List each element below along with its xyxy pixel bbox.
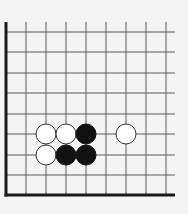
black-stone	[76, 124, 96, 144]
white-stone	[36, 145, 56, 165]
white-stone	[36, 124, 56, 144]
white-stone	[116, 124, 136, 144]
black-stone	[76, 145, 96, 165]
white-stone	[56, 124, 76, 144]
go-board-diagram	[0, 0, 188, 214]
black-stone	[56, 145, 76, 165]
